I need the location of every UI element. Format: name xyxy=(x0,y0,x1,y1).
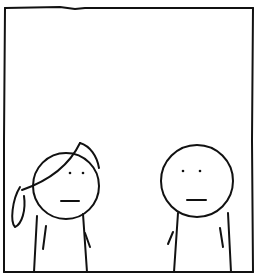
left-hair-line xyxy=(22,143,80,190)
right-arm xyxy=(220,228,223,247)
ponytail xyxy=(12,187,24,227)
panel-frame xyxy=(4,7,253,272)
right-arm xyxy=(168,232,173,244)
left-body-left xyxy=(34,216,37,272)
left-eye xyxy=(69,172,72,175)
left-character-ponytail xyxy=(12,143,99,272)
left-eye xyxy=(82,172,85,175)
right-eye xyxy=(182,170,185,173)
left-body-right xyxy=(83,214,87,272)
left-arm xyxy=(43,226,46,249)
right-body-right xyxy=(228,213,231,272)
comic-panel xyxy=(0,0,258,274)
right-head xyxy=(161,145,233,217)
comic-drawing xyxy=(0,0,258,274)
right-character-bald xyxy=(161,145,233,272)
right-body-left xyxy=(174,213,178,272)
right-eye xyxy=(199,170,202,173)
